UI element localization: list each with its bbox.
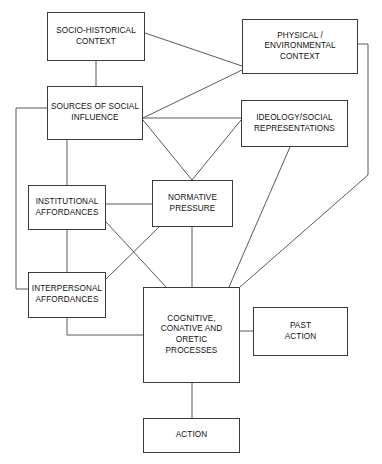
node-label-ideology-social-representations: IDEOLOGY/SOCIAL REPRESENTATIONS — [254, 113, 335, 134]
node-sources-of-social-influence[interactable]: SOURCES OF SOCIAL INFLUENCE — [47, 86, 143, 140]
node-label-institutional-affordances: INSTITUTIONAL AFFORDANCES — [36, 197, 99, 218]
node-interpersonal-affordances[interactable]: INTERPERSONAL AFFORDANCES — [28, 272, 106, 318]
node-institutional-affordances[interactable]: INSTITUTIONAL AFFORDANCES — [28, 185, 106, 230]
node-action[interactable]: ACTION — [143, 418, 240, 453]
edge-socio-historical-to-physical — [145, 33, 242, 66]
node-cognitive-conative-oretic-processes[interactable]: COGNITIVE, CONATIVE AND ORETIC PROCESSES — [143, 287, 240, 383]
node-label-socio-historical-context: SOCIO-HISTORICAL CONTEXT — [56, 26, 136, 47]
edge-ideology-to-normative — [192, 120, 241, 180]
edge-interpersonal-to-normative — [106, 227, 159, 279]
node-label-physical-environmental-context: PHYSICAL / ENVIRONMENTAL CONTEXT — [264, 31, 335, 63]
node-physical-environmental-context[interactable]: PHYSICAL / ENVIRONMENTAL CONTEXT — [242, 19, 358, 74]
edge-interpersonal-to-cognitive — [67, 318, 143, 335]
node-label-normative-pressure: NORMATIVE PRESSURE — [168, 193, 217, 214]
node-label-sources-of-social-influence: SOURCES OF SOCIAL INFLUENCE — [51, 102, 139, 123]
diagram-canvas: SOCIO-HISTORICAL CONTEXTPHYSICAL / ENVIR… — [0, 0, 382, 464]
node-label-past-action: PAST ACTION — [285, 321, 317, 342]
edge-physical-to-cognitive — [240, 44, 368, 287]
edge-physical-to-sources — [143, 70, 242, 118]
node-label-cognitive-conative-oretic-processes: COGNITIVE, CONATIVE AND ORETIC PROCESSES — [161, 314, 223, 356]
node-socio-historical-context[interactable]: SOCIO-HISTORICAL CONTEXT — [47, 12, 145, 61]
node-past-action[interactable]: PAST ACTION — [253, 307, 348, 356]
node-normative-pressure[interactable]: NORMATIVE PRESSURE — [152, 180, 233, 227]
node-label-interpersonal-affordances: INTERPERSONAL AFFORDANCES — [32, 284, 102, 305]
edge-institutional-to-cognitive — [106, 222, 166, 287]
node-ideology-social-representations[interactable]: IDEOLOGY/SOCIAL REPRESENTATIONS — [241, 100, 348, 147]
edge-sources-to-normative — [143, 120, 192, 180]
edge-ideology-to-cognitive — [229, 147, 290, 287]
node-label-action: ACTION — [176, 430, 208, 441]
